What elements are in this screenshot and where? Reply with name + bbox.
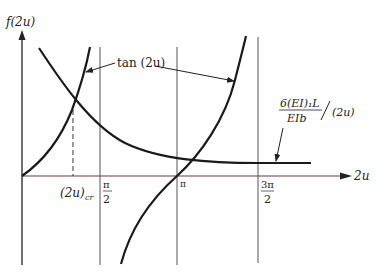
svg-text:3π: 3π <box>261 179 274 190</box>
tick-pi: π <box>180 179 186 189</box>
tick-critical: (2u) cr <box>60 186 94 202</box>
svg-text:(2u): (2u) <box>60 186 85 200</box>
tan-curve-label: tan (2u) <box>117 56 165 70</box>
svg-text:2: 2 <box>103 193 110 206</box>
y-axis-arrow-icon <box>19 30 26 40</box>
ratio-curve-label: 6(EI)₁L EIb (2u) <box>279 97 355 125</box>
ratio-label-arrow <box>276 128 283 161</box>
tick-three-half-pi: 3π 2 <box>261 179 274 206</box>
svg-text:EIb: EIb <box>286 112 306 125</box>
y-axis <box>19 30 26 265</box>
x-axis-label: 2u <box>353 169 369 183</box>
x-axis-arrow-icon <box>340 173 352 180</box>
y-axis-label: f(2u) <box>5 15 35 29</box>
tan-label-arrow-right <box>155 66 234 81</box>
svg-text:6(EI)₁L: 6(EI)₁L <box>280 97 320 110</box>
diagram-canvas: tan (2u) 6(EI)₁L EIb (2u) f(2u) 2u (2u) … <box>0 0 384 279</box>
ratio-curve <box>39 48 311 163</box>
tan-curve-branch-1 <box>22 47 90 176</box>
svg-text:2: 2 <box>264 193 271 206</box>
svg-text:cr: cr <box>85 193 94 202</box>
svg-text:π: π <box>103 179 110 190</box>
svg-text:(2u): (2u) <box>332 106 355 119</box>
tick-half-pi: π 2 <box>103 179 112 206</box>
x-axis <box>22 173 352 180</box>
